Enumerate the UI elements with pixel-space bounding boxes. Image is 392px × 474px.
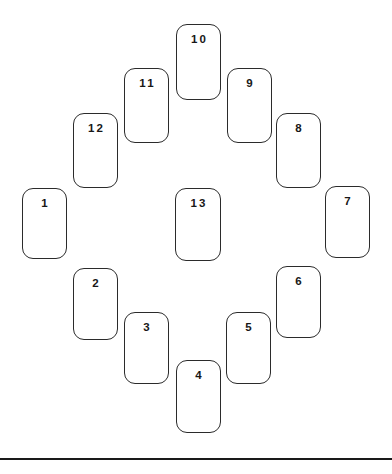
card-13[interactable]: 13	[175, 188, 221, 261]
card-8[interactable]: 8	[276, 113, 321, 188]
card-3[interactable]: 3	[124, 312, 169, 384]
card-label: 3	[125, 320, 168, 334]
card-5[interactable]: 5	[226, 312, 271, 384]
card-1[interactable]: 1	[22, 188, 67, 259]
diagram-canvas: 12345678910111213	[0, 0, 392, 474]
card-4[interactable]: 4	[176, 360, 221, 433]
card-label: 13	[176, 196, 220, 210]
card-6[interactable]: 6	[276, 266, 321, 338]
card-label: 2	[74, 276, 117, 290]
card-label: 6	[277, 274, 320, 288]
card-label: 11	[125, 76, 168, 90]
card-label: 8	[277, 121, 320, 135]
card-label: 12	[74, 121, 117, 135]
card-label: 7	[326, 194, 369, 208]
card-2[interactable]: 2	[73, 268, 118, 340]
card-label: 1	[23, 196, 66, 210]
card-label: 5	[227, 320, 270, 334]
card-12[interactable]: 12	[73, 113, 118, 188]
card-7[interactable]: 7	[325, 186, 370, 258]
card-11[interactable]: 11	[124, 68, 169, 143]
card-label: 9	[228, 76, 271, 90]
card-label: 10	[177, 32, 220, 46]
card-label: 4	[177, 368, 220, 382]
card-9[interactable]: 9	[227, 68, 272, 143]
bottom-horizontal-rule	[0, 458, 392, 460]
card-10[interactable]: 10	[176, 24, 221, 100]
